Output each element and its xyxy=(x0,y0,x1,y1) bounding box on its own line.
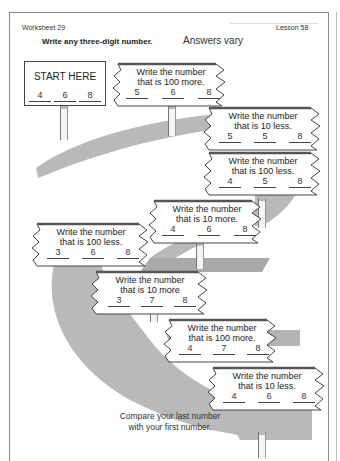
sign-100-more-lower: Write the number that is 100 more. 4 7 8 xyxy=(163,318,281,364)
sign-instruction: that is 100 more. xyxy=(163,333,281,343)
sign-post xyxy=(60,106,68,140)
answer-digits: 5 5 8 xyxy=(203,131,323,143)
answer-digits: 5 6 8 xyxy=(112,87,230,99)
sign-text: Write the number xyxy=(207,371,327,381)
digit-hundreds[interactable]: 4 xyxy=(179,343,201,355)
sign-instruction: that is 10 less. xyxy=(207,381,327,391)
sign-post xyxy=(258,432,266,458)
digit-tens[interactable]: 6 xyxy=(162,87,184,99)
sign-10-more-middle: Write the number that is 10 more 3 7 8 xyxy=(90,270,210,316)
digit-ones[interactable]: 8 xyxy=(174,295,196,307)
digit-tens[interactable]: 6 xyxy=(54,90,76,102)
sign-instruction: that is 10 more xyxy=(90,285,210,295)
sign-text: Write the number xyxy=(31,227,151,237)
sign-instruction: that is 10 more. xyxy=(148,214,266,224)
digit-tens[interactable]: 5 xyxy=(254,176,276,188)
digit-hundreds[interactable]: 4 xyxy=(162,224,184,236)
sign-text: Write the number xyxy=(203,111,323,121)
digit-hundreds[interactable]: 3 xyxy=(108,295,130,307)
digit-ones[interactable]: 8 xyxy=(79,90,101,102)
sign-100-less-left: Write the number that is 100 less. 3 6 8 xyxy=(31,222,151,268)
answer-digits: 3 6 8 xyxy=(31,247,151,259)
digit-ones[interactable]: 8 xyxy=(117,247,139,259)
digit-ones[interactable]: 8 xyxy=(198,87,220,99)
sign-post xyxy=(196,243,204,269)
sign-text: Write the number xyxy=(90,275,210,285)
sign-100-more: Write the number that is 100 more. 5 6 8 xyxy=(112,62,230,108)
closing-instruction: Compare your last number with your first… xyxy=(96,411,244,433)
digit-ones[interactable]: 8 xyxy=(234,224,256,236)
answer-digits: 4 6 8 xyxy=(148,224,266,236)
sign-instruction: that is 100 less. xyxy=(203,166,323,176)
closing-line-2: with your first number. xyxy=(96,422,244,433)
start-digits: 4 6 8 xyxy=(25,90,105,102)
answer-digits: 4 7 8 xyxy=(163,343,281,355)
answer-digits: 4 6 8 xyxy=(207,391,327,403)
digit-hundreds[interactable]: 4 xyxy=(219,176,241,188)
sign-text: Write the number xyxy=(203,156,323,166)
digit-tens[interactable]: 6 xyxy=(198,224,220,236)
digit-hundreds[interactable]: 3 xyxy=(47,247,69,259)
start-sign-title: START HERE xyxy=(25,71,105,82)
digit-tens[interactable]: 7 xyxy=(213,343,235,355)
digit-ones[interactable]: 8 xyxy=(293,391,315,403)
answer-digits: 3 7 8 xyxy=(90,295,210,307)
sign-10-less: Write the number that is 10 less. 5 5 8 xyxy=(203,106,323,152)
answer-digits: 4 5 8 xyxy=(203,176,323,188)
closing-line-1: Compare your last number xyxy=(96,411,244,422)
sign-10-more: Write the number that is 10 more. 4 6 8 xyxy=(148,199,266,245)
sign-instruction: that is 10 less. xyxy=(203,121,323,131)
digit-hundreds[interactable]: 5 xyxy=(219,131,241,143)
sign-text: Write the number xyxy=(112,67,230,77)
digit-hundreds[interactable]: 4 xyxy=(29,90,51,102)
digit-ones[interactable]: 8 xyxy=(289,176,311,188)
sign-instruction: that is 100 more. xyxy=(112,77,230,87)
digit-tens[interactable]: 5 xyxy=(254,131,276,143)
digit-tens[interactable]: 6 xyxy=(82,247,104,259)
sign-10-less-bottom: Write the number that is 10 less. 4 6 8 xyxy=(207,366,327,412)
sign-post xyxy=(168,106,176,136)
sign-instruction: that is 100 less. xyxy=(31,237,151,247)
digit-ones[interactable]: 8 xyxy=(247,343,269,355)
digit-tens[interactable]: 7 xyxy=(141,295,163,307)
sign-100-less: Write the number that is 100 less. 4 5 8 xyxy=(203,151,323,197)
digit-hundreds[interactable]: 4 xyxy=(223,391,245,403)
digit-hundreds[interactable]: 5 xyxy=(126,87,148,99)
sign-text: Write the number xyxy=(163,323,281,333)
digit-ones[interactable]: 8 xyxy=(289,131,311,143)
digit-tens[interactable]: 6 xyxy=(258,391,280,403)
sign-text: Write the number xyxy=(148,204,266,214)
start-sign: START HERE 4 6 8 xyxy=(24,61,106,106)
